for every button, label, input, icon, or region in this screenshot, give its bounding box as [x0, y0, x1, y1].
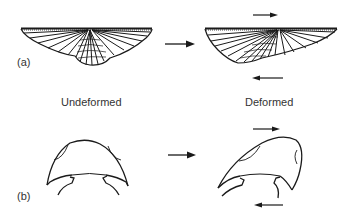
shear-arrow-bottom-a — [252, 76, 283, 81]
undeformed-shell — [21, 29, 152, 66]
shear-arrow-bottom-b — [254, 203, 283, 208]
heading-undeformed: Undeformed — [61, 96, 122, 108]
shear-arrow-top-b — [253, 127, 280, 132]
shear-arrow-top-a — [253, 13, 278, 18]
deformed-cephalon — [218, 137, 302, 198]
transform-arrow-a — [165, 41, 195, 48]
undeformed-cephalon — [47, 140, 128, 195]
figure-canvas — [0, 0, 353, 212]
heading-deformed: Deformed — [245, 96, 293, 108]
transform-arrow-b — [168, 152, 196, 159]
panel-label-a: (a) — [17, 56, 30, 68]
panel-label-b: (b) — [17, 190, 30, 202]
deformed-shell — [205, 29, 337, 64]
